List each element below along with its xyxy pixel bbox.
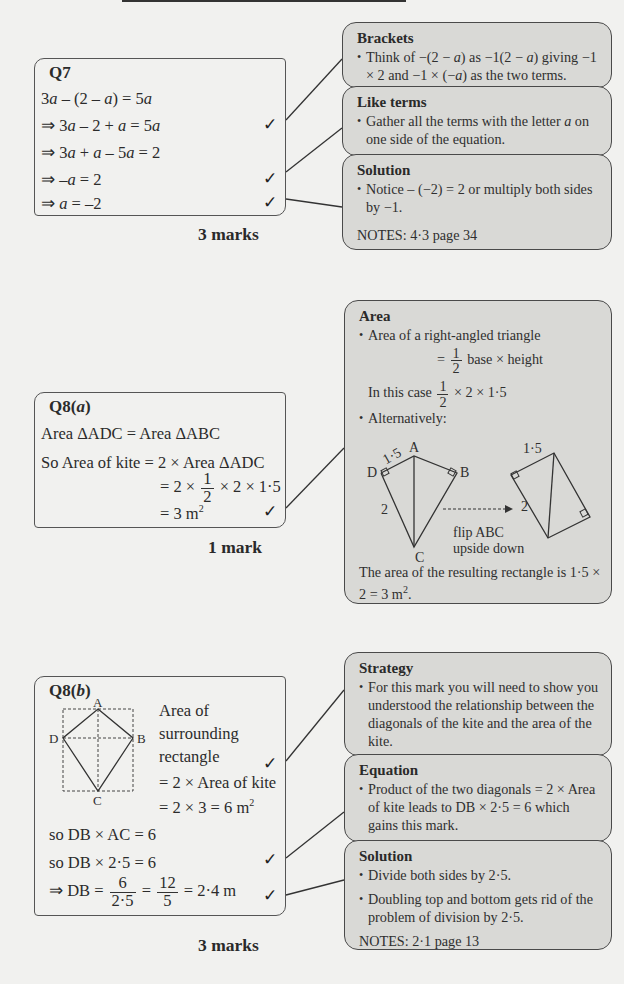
expr-part: = [142, 881, 151, 900]
q8a-hint-area: Area Area of a right-angled triangle = 1… [344, 300, 612, 604]
notes-reference: NOTES: 4·3 page 34 [357, 226, 601, 244]
q8b-side-2: surrounding [159, 724, 239, 744]
tick-icon: ✓ [263, 114, 277, 135]
fraction: 62·5 [110, 875, 136, 909]
frac-num: 12 [157, 875, 178, 893]
hint-title: Solution [359, 847, 601, 865]
q7-hint-brackets: Brackets Think of −(2 − a) as −1(2 − a) … [342, 22, 612, 88]
tick-icon: ✓ [263, 192, 277, 213]
hint-title: Solution [357, 161, 601, 179]
q8a-line-4: = 3 m2 [160, 503, 204, 524]
q8b-hint-strategy: Strategy For this mark you will need to … [344, 652, 612, 756]
hint-bullet: Product of the two diagonals = 2 × Area … [359, 780, 601, 834]
tick-icon: ✓ [263, 753, 277, 774]
q7-line-1: 3a – (2 – a) = 5a [41, 89, 152, 109]
q7-line-4: ⇒ –a = 2 [41, 170, 101, 190]
hint-title: Area [359, 307, 601, 325]
fraction-half: 12 [451, 346, 462, 375]
q8b-line-1: so DB × AC = 6 [49, 825, 156, 845]
q7-line-3: ⇒ 3a + a – 5a = 2 [41, 143, 160, 163]
q8b-side-3: rectangle [159, 747, 219, 767]
frac-num: 1 [451, 346, 462, 361]
hint-title: Brackets [357, 29, 601, 47]
kite-rectangle-diagram: A D B C [41, 699, 151, 809]
q8b-hint-equation: Equation Product of the two diagonals = … [344, 754, 612, 842]
notes-reference: NOTES: 2·1 page 13 [359, 932, 601, 950]
label-D: D [367, 465, 377, 480]
label-rect-top: 1·5 [523, 441, 542, 456]
q8b-marks: 3 marks [198, 935, 259, 956]
hint-bullet: Divide both sides by 2·5. [359, 866, 601, 884]
tick-icon: ✓ [263, 849, 277, 870]
expr-part: = 2·4 m [184, 881, 236, 900]
expr-part: ⇒ DB = [49, 881, 103, 900]
arrow-caption-2: upside down [453, 541, 524, 556]
q8b-side-5: = 2 × 3 = 6 m2 [159, 797, 254, 818]
hint-bullet: Alternatively: [359, 409, 601, 427]
frac-den: 2·5 [110, 893, 136, 910]
hint-bullet: Doubling top and bottom gets rid of the … [359, 890, 601, 926]
hint-title: Equation [359, 761, 601, 779]
hint-title: Strategy [359, 659, 601, 677]
label-A: A [409, 440, 420, 455]
q8a-line-1: Area ΔADC = Area ΔABC [41, 424, 220, 444]
q8b-hint-solution: Solution Divide both sides by 2·5. Doubl… [344, 840, 612, 950]
label-C: C [93, 793, 102, 808]
q7-line-5: ⇒ a = –2 [41, 194, 101, 214]
label-A: A [93, 699, 103, 710]
expr-part: base × height [467, 351, 543, 367]
hint-bullet: Think of −(2 − a) as −1(2 − a) giving −1… [357, 48, 601, 84]
expr-part: In this case [368, 384, 432, 400]
hint-bullet: Gather all the terms with the letter a o… [357, 112, 601, 148]
frac-den: 2 [451, 361, 462, 375]
hint-title: Like terms [357, 93, 601, 111]
q7-hint-like-terms: Like terms Gather all the terms with the… [342, 86, 612, 156]
fraction: 125 [157, 875, 178, 909]
tick-icon: ✓ [263, 501, 277, 522]
frac-den: 2 [437, 395, 448, 409]
fraction-half: 12 [437, 379, 448, 408]
arrow-caption-1: flip ABC [453, 525, 504, 540]
q8b-side-1: Area of [159, 701, 209, 721]
expr-part: × 2 × 1·5 [220, 477, 281, 496]
in-this-case: In this case 12 × 2 × 1·5 [359, 379, 601, 408]
expr-part: = 2 × [160, 477, 195, 496]
q7-hint-solution: Solution Notice – (−2) = 2 or multiply b… [342, 154, 612, 250]
frac-num: 1 [201, 471, 213, 489]
q8b-title: Q8(b) [49, 681, 91, 701]
q7-line-2: ⇒ 3a – 2 + a = 5a [41, 116, 160, 136]
q8b-final: ⇒ DB = 62·5 = 125 = 2·4 m [49, 875, 236, 909]
label-dc: 2 [381, 502, 388, 517]
q7-title: Q7 [49, 63, 71, 83]
q8a-title: Q8(a) [49, 397, 91, 417]
frac-den: 5 [157, 893, 178, 910]
label-B: B [137, 731, 146, 746]
label-D: D [49, 731, 58, 746]
hint-bullet: Notice – (−2) = 2 or multiply both sides… [357, 180, 601, 216]
q8a-line-2: So Area of kite = 2 × Area ΔADC [41, 453, 265, 473]
q8b-side-4: = 2 × Area of kite [159, 773, 276, 793]
frac-num: 6 [110, 875, 136, 893]
formula-half-base-height: = 12 base × height [359, 346, 601, 375]
hint-bullet: For this mark you will need to show you … [359, 678, 601, 750]
q8a-line-3: = 2 × 12 × 2 × 1·5 [160, 471, 281, 505]
expr-part: × 2 × 1·5 [454, 384, 507, 400]
tick-icon: ✓ [263, 885, 277, 906]
fraction-half: 12 [201, 471, 213, 505]
area-conclusion: The area of the resulting rectangle is 1… [359, 563, 605, 603]
tick-icon: ✓ [263, 168, 277, 189]
frac-num: 1 [437, 379, 448, 394]
q8a-answer-box: Q8(a) Area ΔADC = Area ΔABC So Area of k… [34, 392, 286, 528]
expr-part: = [437, 351, 445, 367]
q8a-marks: 1 mark [208, 537, 262, 558]
kite-flip-diagram: A D B C 2 1·5 flip ABC upside down 1·5 2 [345, 439, 605, 569]
q8b-answer-box: Q8(b) A D B C Area of surrounding rectan… [34, 676, 286, 916]
label-rect-side: 2 [521, 499, 528, 514]
label-B: B [460, 465, 469, 480]
hint-bullet: Area of a right-angled triangle [359, 326, 601, 344]
top-rule [122, 0, 406, 2]
q7-answer-box: Q7 3a – (2 – a) = 5a ⇒ 3a – 2 + a = 5a ⇒… [34, 58, 286, 216]
q8b-line-2: so DB × 2·5 = 6 [49, 853, 156, 873]
q7-marks: 3 marks [198, 224, 259, 245]
